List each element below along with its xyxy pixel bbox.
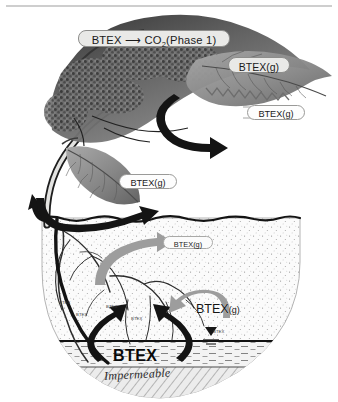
label-canopy-reaction: BTEX ⟶ CO2(Phase 1) xyxy=(78,30,230,47)
soil-btex-tag: BTEX xyxy=(131,317,142,321)
soil-btex-tag: BTEX xyxy=(59,301,70,305)
soil-btex-tag: BTEX xyxy=(213,330,224,334)
label-mid-right-gas: BTEX(g) xyxy=(247,105,305,120)
figure-canvas: BTEX ⟶ CO2(Phase 1) BTEX(g) BTEX(g) BTEX… xyxy=(0,0,338,402)
label-groundwater-btex: BTEX xyxy=(113,348,157,364)
label-vadose-gas: BTEX(g) xyxy=(196,303,240,316)
reaction-arrow-icon: ⟶ xyxy=(125,34,141,46)
soil-btex-tag: BTEX xyxy=(76,313,87,317)
label-canopy-gas: BTEX(g) xyxy=(228,57,290,73)
label-soil-upward-gas: BTEX(g) xyxy=(163,236,213,249)
soil-btex-tag: BTEX xyxy=(106,305,117,309)
label-impermeable: Impermeable xyxy=(104,367,171,382)
label-low-left-gas: BTEX(g) xyxy=(119,174,177,189)
